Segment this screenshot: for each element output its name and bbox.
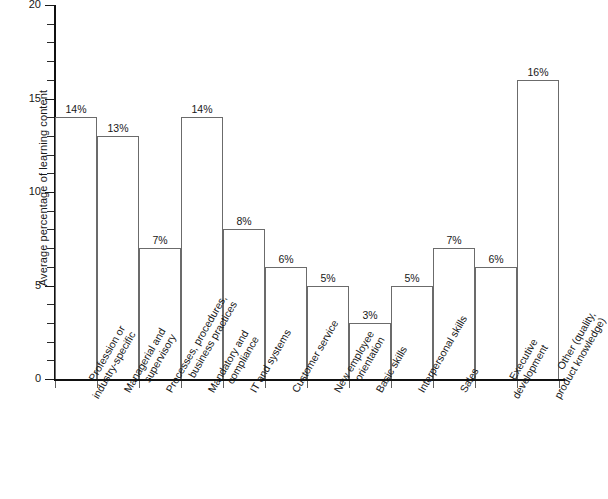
- y-axis-minor-tick: [47, 155, 54, 156]
- y-axis-minor-tick: [47, 229, 54, 230]
- x-axis-tick: [55, 381, 56, 388]
- bar-value-label: 5%: [307, 272, 349, 284]
- y-axis-major-tick: [45, 192, 54, 193]
- bar-value-label: 16%: [517, 66, 559, 78]
- bar-value-label: 6%: [475, 253, 517, 265]
- y-axis-minor-tick: [47, 61, 54, 62]
- bar: [475, 267, 517, 379]
- y-axis-major-tick: [45, 5, 54, 6]
- y-axis-minor-tick: [47, 42, 54, 43]
- y-axis-minor-tick: [47, 136, 54, 137]
- bar-value-label: 7%: [139, 234, 181, 246]
- bar-value-label: 6%: [265, 253, 307, 265]
- bar: [517, 80, 559, 379]
- y-axis-minor-tick: [47, 248, 54, 249]
- y-axis-tick-label: 10: [15, 186, 41, 197]
- y-axis-minor-tick: [47, 267, 54, 268]
- y-axis-major-tick: [45, 99, 54, 100]
- y-axis-minor-tick: [47, 323, 54, 324]
- y-axis-tick-label: 0: [15, 373, 41, 384]
- y-axis-minor-tick: [47, 80, 54, 81]
- y-axis-minor-tick: [47, 117, 54, 118]
- y-axis-major-tick: [45, 379, 54, 380]
- bar-value-label: 7%: [433, 234, 475, 246]
- bar-value-label: 14%: [181, 103, 223, 115]
- y-axis-tick-label: 20: [15, 0, 41, 10]
- y-axis-minor-tick: [47, 211, 54, 212]
- y-axis-minor-tick: [47, 342, 54, 343]
- y-axis-tick-label: 15: [15, 93, 41, 104]
- y-axis-minor-tick: [47, 24, 54, 25]
- y-axis-minor-tick: [47, 360, 54, 361]
- bar-value-label: 13%: [97, 122, 139, 134]
- y-axis-major-tick: [45, 286, 54, 287]
- bar-value-label: 5%: [391, 272, 433, 284]
- y-axis-minor-tick: [47, 173, 54, 174]
- y-axis-tick-label: 5: [15, 280, 41, 291]
- y-axis-minor-tick: [47, 304, 54, 305]
- bar-value-label: 3%: [349, 309, 391, 321]
- bar: [55, 117, 97, 379]
- bar-value-label: 8%: [223, 215, 265, 227]
- bar-value-label: 14%: [55, 103, 97, 115]
